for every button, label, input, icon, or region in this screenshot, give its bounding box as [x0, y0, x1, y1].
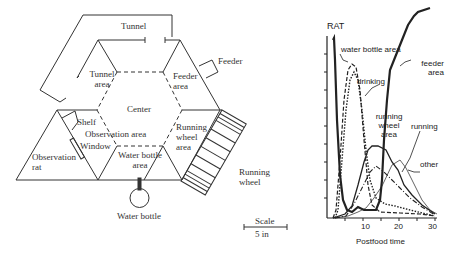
label-center: Center [127, 104, 151, 114]
x-tick-10: 10 [361, 222, 370, 231]
scale-title: Scale [255, 216, 275, 226]
label-observation-area: Observation area [85, 129, 146, 139]
annotation-water-bottle-area: water bottle area [341, 45, 401, 54]
label-observation-rat: Observation rat [32, 152, 76, 172]
label-feeder-area: Feeder area [173, 71, 198, 91]
annotation-running-wheel-area: running wheel area [371, 112, 407, 139]
label-water-bottle-area: Water bottle area [114, 150, 166, 170]
chart-title: RAT [327, 22, 344, 31]
x-tick-20: 20 [394, 222, 403, 231]
label-water-bottle: Water bottle [117, 211, 161, 221]
annotation-other: other [420, 160, 438, 169]
scale-value: 5 in [255, 229, 269, 239]
label-running-wheel-area: Running wheel area [176, 122, 207, 152]
label-feeder: Feeder [218, 56, 243, 66]
x-tick-30: 30 [428, 222, 437, 231]
annotation-drinking: drinking [357, 77, 385, 86]
label-tunnel-area: Tunnel area [82, 69, 122, 89]
annotation-feeder-area: feeder area [414, 59, 444, 77]
series-feeder-area [333, 8, 430, 212]
label-tunnel: Tunnel [121, 21, 146, 31]
label-shelf: Shelf [77, 117, 96, 127]
label-running-wheel: Running wheel [239, 167, 270, 187]
label-window: Window [80, 141, 111, 151]
x-axis-label: Postfood time [356, 237, 405, 246]
annotation-running: running [411, 122, 438, 131]
